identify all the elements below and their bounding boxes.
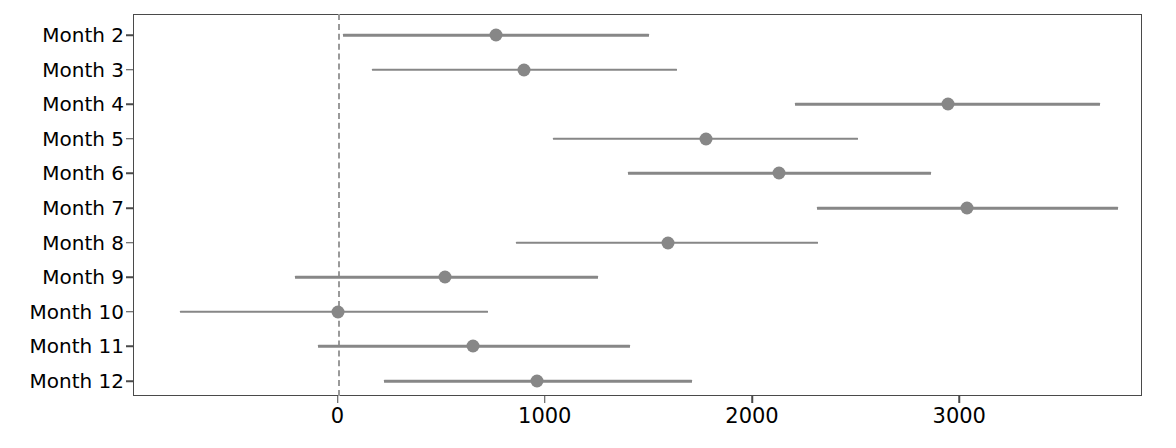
confidence-interval-row [133, 96, 1142, 112]
y-axis-tick-mark [126, 346, 133, 348]
point-estimate-marker [772, 167, 785, 180]
y-axis-tick-label: Month 5 [42, 127, 124, 151]
y-axis-tick-label: Month 4 [42, 92, 124, 116]
confidence-interval-row [133, 269, 1142, 285]
point-estimate-marker [661, 236, 674, 249]
y-axis-tick-mark [126, 103, 133, 105]
y-axis-tick-label: Month 12 [30, 369, 125, 393]
y-axis-tick-label: Month 6 [42, 161, 124, 185]
x-axis-tick-mark [337, 396, 339, 403]
point-estimate-marker [960, 202, 973, 215]
confidence-interval-row [133, 62, 1142, 78]
confidence-interval-row [133, 200, 1142, 216]
point-estimate-marker [331, 305, 344, 318]
confidence-interval-row [133, 373, 1142, 389]
point-estimate-marker [467, 340, 480, 353]
y-axis-tick-label: Month 3 [42, 58, 124, 82]
y-axis-tick-mark [126, 69, 133, 71]
confidence-interval-row [133, 304, 1142, 320]
x-axis-tick-label: 0 [331, 404, 344, 428]
y-axis-tick-label: Month 8 [42, 231, 124, 255]
confidence-interval-row [133, 131, 1142, 147]
x-axis-tick-mark [959, 396, 961, 403]
x-axis-tick-label: 3000 [933, 404, 986, 428]
point-estimate-marker [439, 271, 452, 284]
y-axis-tick-mark [126, 311, 133, 313]
y-axis-tick-mark [126, 138, 133, 140]
point-estimate-marker [941, 98, 954, 111]
confidence-interval-row [133, 338, 1142, 354]
y-axis-tick-label: Month 11 [30, 334, 125, 358]
y-axis-tick-mark [126, 207, 133, 209]
x-axis-tick-label: 2000 [725, 404, 778, 428]
x-axis-tick-mark [544, 396, 546, 403]
y-axis-tick-mark [126, 242, 133, 244]
point-estimate-marker [531, 375, 544, 388]
y-axis-tick-label: Month 10 [30, 300, 125, 324]
y-axis-tick-label: Month 7 [42, 196, 124, 220]
y-axis-tick-label: Month 2 [42, 23, 124, 47]
forest-plot-figure: Month 2Month 3Month 4Month 5Month 6Month… [0, 0, 1176, 448]
point-estimate-marker [518, 63, 531, 76]
y-axis-labels: Month 2Month 3Month 4Month 5Month 6Month… [0, 0, 124, 448]
y-axis-tick-mark [126, 173, 133, 175]
y-axis-tick-mark [126, 276, 133, 278]
y-axis-tick-label: Month 9 [42, 265, 124, 289]
point-estimate-marker [699, 132, 712, 145]
confidence-interval-row [133, 235, 1142, 251]
point-estimate-marker [490, 29, 503, 42]
y-axis-tick-mark [126, 380, 133, 382]
x-axis-tick-mark [751, 396, 753, 403]
confidence-interval-row [133, 27, 1142, 43]
confidence-interval-row [133, 165, 1142, 181]
x-axis-tick-label: 1000 [518, 404, 571, 428]
y-axis-tick-mark [126, 34, 133, 36]
